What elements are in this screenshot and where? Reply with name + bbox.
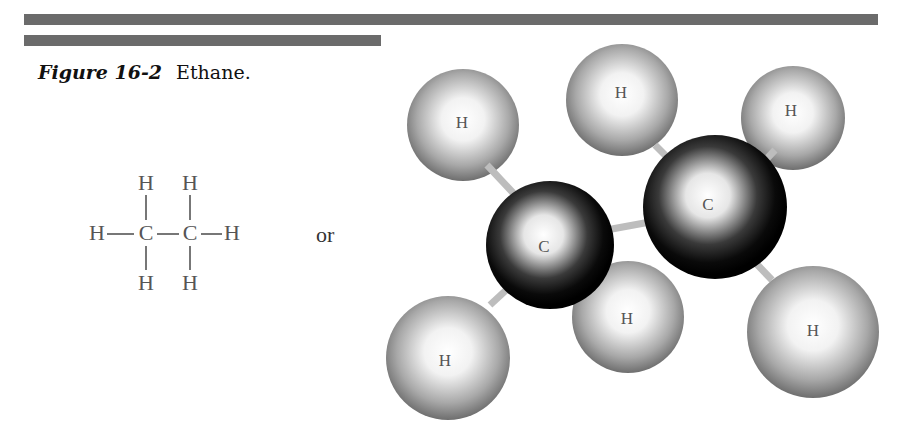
label-h-bottom-right: H <box>807 321 819 340</box>
label-h-bottom-left: H <box>439 351 451 370</box>
label-c-right: C <box>702 195 713 214</box>
label-h-top-right: H <box>785 101 797 120</box>
label-c-left: C <box>538 237 549 256</box>
atom-c-left <box>486 181 614 309</box>
bond-c1-h-top-left <box>487 165 515 195</box>
label-h-top-left: H <box>456 113 468 132</box>
atom-c-right <box>643 135 787 279</box>
ball-and-stick-model: H H H C C H H H <box>0 0 922 446</box>
label-h-top-middle: H <box>615 83 627 102</box>
label-h-bottom-middle: H <box>621 309 633 328</box>
